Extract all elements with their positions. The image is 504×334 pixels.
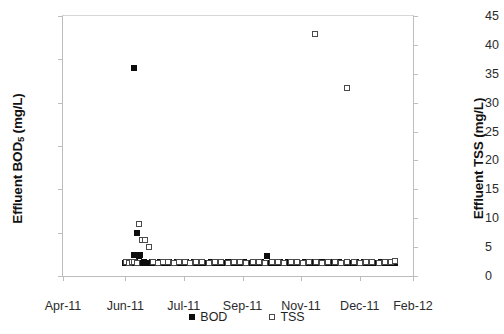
y-axis-left-title-suffix: (mg/L) [10,93,25,137]
data-point-tss [237,259,243,265]
data-point-tss [212,259,218,265]
data-point-tss [338,260,344,266]
y-axis-right-tick-label: 10 [485,211,504,225]
legend-label-tss: TSS [280,310,304,324]
data-point-tss [300,260,306,266]
data-point-bod [137,252,143,258]
y-axis-right-tick-label: 40 [485,38,504,52]
y-axis-right-tick [413,103,418,104]
data-point-tss [136,221,142,227]
y-axis-left-tick [58,16,63,17]
data-point-tss [369,259,375,265]
data-point-tss [218,259,224,265]
data-point-tss [262,260,268,266]
y-axis-right-tick-label: 15 [485,182,504,196]
y-axis-right-tick [413,74,418,75]
data-point-tss [231,259,237,265]
y-axis-left-tick [58,233,63,234]
x-axis-tick [63,276,64,281]
y-axis-right-title: Effluent TSS (mg/L) [471,79,486,239]
data-point-tss [351,259,357,265]
y-axis-right-tick [413,45,418,46]
x-axis-tick [243,276,244,281]
y-axis-right-tick [413,160,418,161]
data-point-tss [357,260,363,266]
y-axis-right-tick-label: 30 [485,96,504,110]
y-axis-right-tick-label: 20 [485,153,504,167]
y-axis-right-tick-label: 45 [485,9,504,23]
data-point-tss [306,259,312,265]
y-axis-left-title-subscript: 5 [15,137,26,142]
y-axis-left-title: Effluent BOD5 (mg/L) [10,79,25,239]
y-axis-right-tick-label: 35 [485,67,504,81]
data-point-tss [281,260,287,266]
data-point-tss [312,31,318,37]
data-point-tss [146,244,152,250]
data-point-tss [382,259,388,265]
y-axis-right-tick [413,247,418,248]
data-point-tss [269,259,275,265]
data-point-tss [250,259,256,265]
y-axis-left-tick [58,146,63,147]
y-axis-right-tick [413,16,418,17]
data-point-tss [288,259,294,265]
legend-item-tss[interactable]: TSS [269,310,304,324]
y-axis-right-tick [413,189,418,190]
data-point-tss [256,259,262,265]
y-axis-left-tick [58,189,63,190]
data-point-tss [332,259,338,265]
data-point-tss [193,259,199,265]
legend-item-bod[interactable]: BOD [189,310,227,324]
y-axis-right-tick-label: 0 [485,269,504,283]
data-point-tss [275,259,281,265]
x-axis-tick [301,276,302,281]
data-point-tss [225,260,231,266]
chart-legend: BOD TSS [0,310,494,324]
data-point-bod [134,230,140,236]
data-point-tss [319,260,325,266]
y-axis-right-tick [413,218,418,219]
x-axis-tick [360,276,361,281]
y-axis-right-tick-label: 25 [485,125,504,139]
data-point-tss [313,259,319,265]
y-axis-left-title-prefix: Effluent BOD [10,142,25,224]
data-point-tss [243,260,249,266]
data-point-tss [325,259,331,265]
data-point-tss [344,259,350,265]
y-axis-left-tick [58,103,63,104]
data-point-tss [376,260,382,266]
y-axis-left-tick [58,59,63,60]
data-point-tss [206,260,212,266]
filled-square-icon [189,314,195,320]
data-point-tss [142,237,148,243]
y-axis-right-tick [413,132,418,133]
x-axis-tick [125,276,126,281]
data-point-tss [363,259,369,265]
y-axis-right-tick-label: 5 [485,240,504,254]
data-point-tss [392,258,398,264]
data-point-tss [344,85,350,91]
open-square-icon [269,314,275,320]
legend-label-bod: BOD [200,310,227,324]
data-point-tss [294,259,300,265]
data-point-bod [131,65,137,71]
plot-area: 0102030405060051015202530354045Apr-11Jun… [62,15,414,277]
data-point-tss [134,260,140,266]
x-axis-tick [184,276,185,281]
x-axis-tick [413,276,414,281]
data-point-tss [199,259,205,265]
